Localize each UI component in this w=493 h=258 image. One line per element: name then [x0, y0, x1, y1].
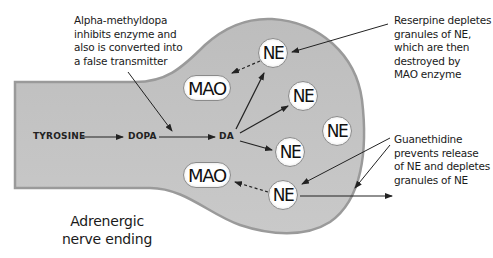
ne-granule-top: NE	[258, 38, 288, 68]
label-tyrosine: TYROSINE	[33, 131, 85, 141]
annotation-guanethidine: Guanethidine prevents release of NE and …	[394, 133, 490, 187]
annotation-alpha-methyldopa: Alpha-methyldopa inhibits enzyme and als…	[74, 14, 182, 68]
ne-granule-upper-middle: NE	[288, 81, 318, 111]
label-dopa: DOPA	[128, 131, 157, 141]
annotation-reserpine: Reserpine depletes granules of NE, which…	[394, 14, 491, 82]
diagram-caption: Adrenergic nerve ending	[52, 212, 162, 248]
nerve-terminal-shape	[15, 19, 364, 233]
mao-enzyme-lower: MAO	[183, 162, 231, 188]
mao-enzyme-upper: MAO	[183, 75, 231, 101]
ne-granule-bottom: NE	[268, 180, 298, 210]
label-da: DA	[219, 131, 234, 141]
ne-granule-lower-middle: NE	[275, 137, 305, 167]
ne-granule-right: NE	[322, 116, 352, 146]
adrenergic-nerve-ending-diagram: TYROSINE DOPA DA MAO MAO NE NE NE NE NE …	[0, 0, 493, 258]
